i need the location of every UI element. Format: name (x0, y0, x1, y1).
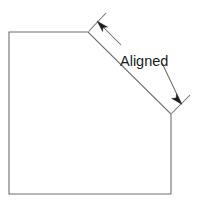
lower-extension-line (172, 95, 191, 114)
lower-arrowhead-icon (172, 94, 182, 105)
upper-extension-line (89, 13, 107, 32)
dimension-label: Aligned (120, 53, 168, 69)
drawing-canvas: Aligned (0, 0, 199, 203)
technical-drawing-svg: Aligned (0, 0, 199, 203)
